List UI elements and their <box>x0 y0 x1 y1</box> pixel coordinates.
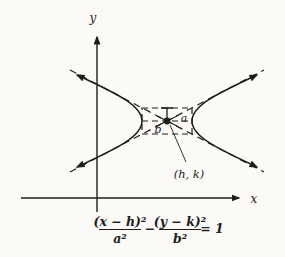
y-axis-label: y <box>89 11 97 25</box>
figure-canvas: y x a b (h, k) <box>0 0 285 257</box>
center-leader-line <box>170 125 186 162</box>
center-coordinates-label: (h, k) <box>174 167 205 181</box>
equation-numerator-1: (x − h)² <box>93 214 147 229</box>
b-label: b <box>154 123 161 136</box>
a-label: a <box>181 112 188 125</box>
right-branch <box>192 75 257 167</box>
equation-denominator-1: a² <box>113 231 127 246</box>
equation-denominator-2: b² <box>173 231 188 246</box>
equation-numerator-2: (y − k)² <box>154 214 207 229</box>
x-axis-label: x <box>251 192 258 206</box>
equation-rhs: = 1 <box>200 221 224 236</box>
left-branch <box>77 75 142 167</box>
center-point <box>164 118 171 125</box>
hyperbola-figure: y x a b (h, k) <box>0 0 285 257</box>
equation: (x − h)² a² − (y − k)² b² = 1 <box>93 214 223 246</box>
